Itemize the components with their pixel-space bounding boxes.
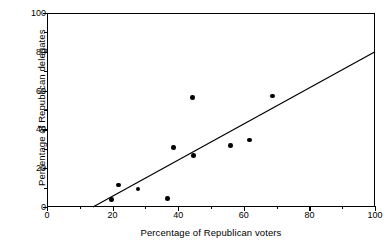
data-point — [171, 145, 176, 150]
x-tick-label: 20 — [108, 211, 118, 220]
data-point — [109, 197, 114, 202]
x-tick-label: 80 — [304, 211, 314, 220]
plot-area: 020406080100 020406080100 — [47, 13, 375, 207]
y-tick-label: 40 — [36, 125, 46, 134]
data-point — [116, 183, 121, 188]
x-axis-title: Percentage of Republican voters — [47, 228, 375, 238]
y-axis-title: Percentage of Republican delegates — [37, 13, 47, 203]
x-tick-label: 0 — [44, 211, 49, 220]
data-point — [270, 94, 275, 99]
x-tick-label: 40 — [173, 211, 183, 220]
data-point — [228, 143, 233, 148]
x-tick-label: 60 — [239, 211, 249, 220]
data-point — [165, 196, 170, 201]
y-tick-label: 100 — [31, 9, 46, 18]
data-point — [190, 95, 195, 100]
regression-line — [47, 13, 375, 207]
y-tick-label: 60 — [36, 86, 46, 95]
y-tick-label: 20 — [36, 164, 46, 173]
y-tick-label: 80 — [36, 47, 46, 56]
scatter-plot-figure: Percentage of Republican delegates Perce… — [0, 0, 389, 251]
x-tick-label: 100 — [367, 211, 382, 220]
data-point — [191, 153, 196, 158]
